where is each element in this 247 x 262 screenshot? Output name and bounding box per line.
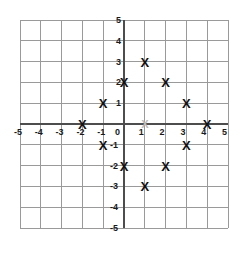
data-point-marker: X xyxy=(182,138,191,151)
x-tick-label: -1 xyxy=(97,128,105,137)
x-tick-label: 5 xyxy=(222,128,227,137)
y-tick-label: 1 xyxy=(116,99,121,108)
data-point-marker: X xyxy=(120,76,129,89)
data-point-marker: X xyxy=(161,76,170,89)
data-point-marker: X xyxy=(99,97,108,110)
faint-data-point-marker: X xyxy=(141,119,148,130)
axis-lines xyxy=(20,20,228,228)
data-point-marker: X xyxy=(182,97,191,110)
x-tick-label: 2 xyxy=(160,128,165,137)
y-tick-label: -5 xyxy=(110,224,118,233)
y-tick-label: -4 xyxy=(110,203,118,212)
y-tick-label: 5 xyxy=(116,16,121,25)
coordinate-plane: -5-4-3-2-1012345 54321-1-2-3-4-5 XXXXXXX… xyxy=(0,0,247,262)
data-point-marker: X xyxy=(120,159,129,172)
data-point-marker: X xyxy=(161,159,170,172)
data-point-marker: X xyxy=(99,138,108,151)
x-tick-label: 0 xyxy=(115,128,120,137)
data-point-marker: X xyxy=(140,180,149,193)
y-tick-label: -3 xyxy=(110,182,118,191)
data-point-marker: X xyxy=(203,118,212,131)
x-tick-label: -5 xyxy=(14,128,22,137)
y-tick-label: -1 xyxy=(110,141,118,150)
y-tick-label: 3 xyxy=(116,58,121,67)
data-point-marker: X xyxy=(78,118,87,131)
data-point-marker: X xyxy=(140,55,149,68)
x-tick-label: 3 xyxy=(180,128,185,137)
y-tick-label: 4 xyxy=(116,37,121,46)
x-tick-label: -3 xyxy=(56,128,64,137)
x-tick-label: -4 xyxy=(35,128,43,137)
y-tick-label: -2 xyxy=(110,162,118,171)
